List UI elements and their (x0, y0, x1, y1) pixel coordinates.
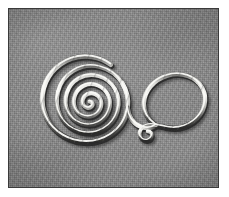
photograph (9, 9, 218, 187)
image-frame (0, 0, 229, 197)
artifact-illustration (9, 9, 218, 187)
artifact-svg (9, 9, 218, 187)
